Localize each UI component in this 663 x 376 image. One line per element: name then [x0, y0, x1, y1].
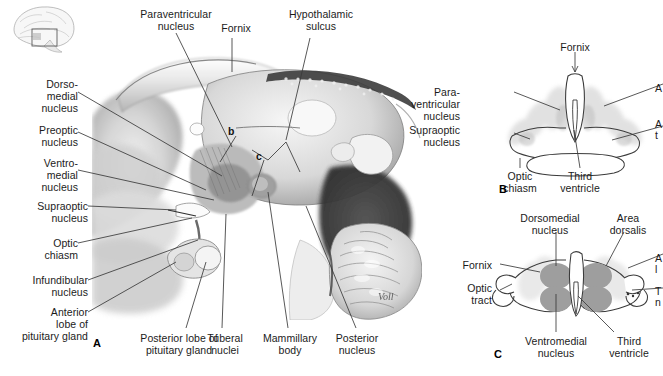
label-infundibular-nucleus: Infundibular nucleus: [0, 274, 88, 298]
label-paraventricular-nucleus-b: Para- ventricular nucleus: [388, 86, 460, 123]
label-clipped-b-1: A: [655, 82, 663, 94]
panel-c-illustration: [493, 252, 648, 316]
label-third-ventricle-c: Third ventricle: [603, 335, 655, 359]
label-supraoptic-nucleus-a: Supraoptic nucleus: [0, 200, 88, 224]
label-anterior-lobe-pituitary: Anterior lobe of pituitary gland: [0, 306, 88, 343]
label-third-ventricle-b: Third ventricle: [554, 170, 606, 194]
section-marker-b: b: [228, 125, 234, 137]
label-optic-chiasm-a: Optic chiasm: [0, 237, 78, 261]
label-clipped-c-4: n: [655, 296, 663, 308]
artist-signature: Voll: [378, 291, 394, 302]
label-fornix-a: Fornix: [213, 22, 259, 34]
panel-a-leader-lines: [78, 33, 356, 328]
label-dorsomedial-nucleus-c: Dorsomedial nucleus: [510, 212, 590, 236]
label-preoptic-nucleus: Preoptic nucleus: [0, 124, 78, 148]
label-clipped-b-3: t: [655, 129, 663, 141]
label-optic-tract: Optic tract: [440, 282, 492, 306]
label-tuberal-nuclei: Tuberal nuclei: [198, 332, 252, 356]
brain-orientation-inset: [14, 7, 74, 52]
label-dorsomedial-nucleus-a: Dorso- medial nucleus: [0, 78, 78, 115]
label-hypothalamic-sulcus: Hypothalamic sulcus: [272, 8, 370, 32]
panel-b-leader-lines: [514, 52, 663, 168]
panel-c-leader-lines: [500, 232, 663, 332]
label-area-dorsalis: Area dorsalis: [600, 212, 656, 236]
label-supraoptic-nucleus-b: Supraoptic nucleus: [380, 124, 460, 148]
panel-a-anatomy: [92, 58, 422, 320]
panel-b-illustration: [504, 74, 647, 176]
hypothalamus-figure: Voll: [0, 0, 663, 376]
label-ventromedial-nucleus-c: Ventromedial nucleus: [516, 335, 596, 359]
label-posterior-nucleus: Posterior nucleus: [323, 332, 391, 356]
label-fornix-c: Fornix: [440, 259, 492, 271]
panel-letter-a: A: [93, 337, 101, 349]
label-fornix-b: Fornix: [552, 41, 598, 53]
label-clipped-c-2: l: [655, 263, 663, 275]
section-marker-c: c: [256, 150, 262, 162]
label-ventromedial-nucleus-a: Ventro- medial nucleus: [0, 157, 78, 194]
panel-letter-c: C: [494, 348, 502, 360]
label-mammillary-body: Mammillary body: [253, 332, 327, 356]
panel-letter-b: B: [499, 183, 507, 195]
dorsomedial-nucleus-shape: [540, 263, 572, 289]
